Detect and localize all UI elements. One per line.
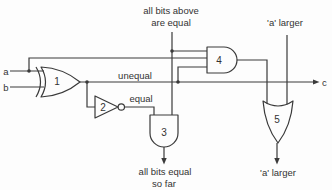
label-so-far: so far bbox=[152, 178, 176, 189]
arrowhead-gate5-output bbox=[274, 158, 279, 165]
not-gate-2 bbox=[95, 96, 118, 118]
input-b-label: b bbox=[3, 82, 8, 93]
junction-dot-gate1-output bbox=[85, 80, 89, 84]
label-are-equal: are equal bbox=[151, 17, 191, 28]
wire-equal-to-gate3 bbox=[125, 107, 155, 115]
arrowhead-gate3-output bbox=[161, 158, 166, 165]
gate4-number: 4 bbox=[216, 55, 222, 66]
junction-dot-a-branch bbox=[27, 69, 31, 73]
circuit-canvas: 1 2 3 4 5 a b c all bits above are equal… bbox=[0, 0, 332, 190]
label-unequal: unequal bbox=[118, 70, 152, 81]
xor-gate-1 bbox=[41, 67, 80, 97]
gate2-number: 2 bbox=[100, 102, 106, 113]
wire-unequal-to-gate4 bbox=[178, 67, 207, 82]
gate3-number: 3 bbox=[161, 127, 167, 138]
arrowhead-output-c bbox=[313, 80, 320, 85]
output-c-label: c bbox=[322, 77, 327, 88]
label-a-larger-bottom: 'a' larger bbox=[260, 167, 296, 178]
junction-dot-aboveequal bbox=[170, 49, 174, 53]
label-all-bits-above: all bits above bbox=[143, 5, 198, 16]
gate5-number: 5 bbox=[274, 114, 280, 125]
circuit-diagram: 1 2 3 4 5 a b c all bits above are equal… bbox=[0, 0, 332, 190]
junction-dot-unequal-tap bbox=[176, 80, 180, 84]
not-gate-2-bubble bbox=[118, 104, 124, 110]
wire-to-gate2-input bbox=[87, 82, 95, 107]
gate1-number: 1 bbox=[54, 76, 60, 87]
and-gate-4 bbox=[207, 47, 237, 73]
label-all-bits-equal: all bits equal bbox=[139, 166, 192, 177]
label-equal: equal bbox=[129, 93, 152, 104]
label-a-larger-top: 'a' larger bbox=[267, 17, 303, 28]
input-a-label: a bbox=[3, 66, 9, 77]
